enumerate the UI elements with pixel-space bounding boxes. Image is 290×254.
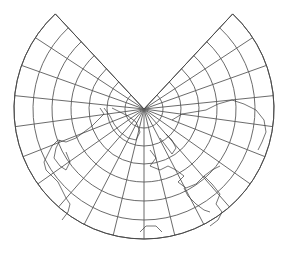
conic-map [0,0,290,254]
coastline-africa-north [140,226,162,232]
coastline-asia-north [172,100,266,150]
coastline-arabian-coast [184,188,210,212]
map-canvas [0,0,290,254]
coastline-hudson-bay [54,140,70,170]
graticule [14,14,274,239]
meridian-line [144,109,273,127]
coastlines [44,100,266,232]
meridian-line [15,109,144,127]
